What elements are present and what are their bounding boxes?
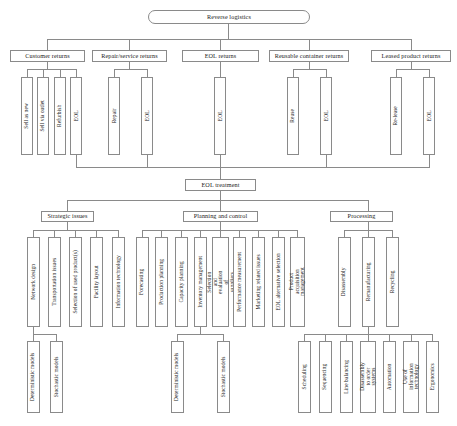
node-marketing-related-issues[interactable]: Marketing related issues (252, 237, 265, 327)
connector-planning-child-1 (142, 230, 143, 237)
node-label: Sequencing (323, 364, 329, 390)
node-label: Selection and evaluation of suppliers (206, 270, 234, 293)
node-strategic-deterministic-models[interactable]: Deterministic models (27, 341, 40, 413)
connector-eol-collect-leased (429, 155, 430, 167)
node-sell-as-new[interactable]: Sell as new (21, 77, 33, 155)
node-label: Re-lease (393, 106, 399, 125)
connector-customer-child-3 (60, 69, 61, 77)
node-information-technology[interactable]: Information technology (112, 237, 125, 327)
node-reuse[interactable]: Reuse (287, 77, 299, 155)
node-label: EOL (323, 111, 329, 122)
node-disassembly-to-order-systems[interactable]: Disassembly to order systems (360, 341, 376, 413)
node-product-acquisition-management[interactable]: Product acquisition management (290, 237, 305, 327)
connector-drop-reusable-container-returns (309, 39, 310, 50)
node-ergonomics[interactable]: Ergonomics (426, 341, 439, 413)
node-label: Refurbish (57, 105, 63, 127)
connector-repair-returns-bus (114, 69, 147, 70)
connector-planning-child-7 (258, 230, 259, 237)
node-label: Planning and control (194, 213, 248, 220)
node-line-balancing[interactable]: Line balancing (340, 341, 353, 413)
node-processing[interactable]: Processing (330, 211, 393, 222)
node-label: Remanufacturing (366, 263, 372, 302)
node-strategic-issues[interactable]: Strategic issues (41, 211, 94, 222)
node-sequencing[interactable]: Sequencing (319, 341, 332, 413)
connector-processing-sub-child-5 (389, 334, 390, 341)
connector-drop-processing (368, 200, 369, 211)
connector-processing-child-1 (344, 230, 345, 237)
connector-processing-sub-child-7 (432, 334, 433, 341)
connector-leased-child-2 (429, 69, 430, 77)
node-use-of-information-technology[interactable]: Use of information technology (403, 341, 419, 413)
node-label: Deterministic models (31, 353, 37, 401)
connector-strategic-child-1 (33, 230, 34, 237)
node-label: Disassembly to order systems (359, 363, 376, 392)
node-transportation-issues[interactable]: Transportation issues (48, 237, 61, 327)
node-label: EOL alternative selection (276, 253, 282, 310)
node-repair[interactable]: Repair (108, 77, 120, 155)
connector-processing-child-3 (392, 230, 393, 237)
connector-planning-child-8 (278, 230, 279, 237)
node-selection-and-evaluation-of-suppliers[interactable]: Selection and evaluation of suppliers (212, 237, 229, 327)
node-customer-returns[interactable]: Customer returns (10, 50, 85, 62)
node-repair-eol[interactable]: EOL (141, 77, 153, 155)
connector-strategic-sub-child-2 (56, 334, 57, 341)
connector-eol-treatment-stem (220, 167, 221, 179)
node-strategic-stochastic-models[interactable]: Stochastic models (50, 341, 63, 413)
node-recycling[interactable]: Recycling (386, 237, 399, 327)
connector-strategic-sub-child-1 (33, 334, 34, 341)
connector-drop-leased-product-returns (411, 39, 412, 50)
node-forecasting[interactable]: Forecasting (136, 237, 149, 327)
node-label: Production planning (159, 259, 165, 305)
node-label: EOL treatment (201, 182, 239, 189)
connector-leased-returns-stem (411, 62, 412, 69)
node-label: Reusable container returns (275, 53, 344, 60)
connector-repair-child-2 (147, 69, 148, 77)
connector-processing-stem (368, 222, 369, 230)
node-selection-of-used-products[interactable]: Selection of used product(s) (69, 237, 82, 327)
connector-planning-child-2 (161, 230, 162, 237)
node-label: Facility layout (94, 266, 100, 299)
node-eol-treatment[interactable]: EOL treatment (185, 179, 256, 191)
node-disassembly[interactable]: Disassembly (338, 237, 351, 327)
connector-planning-sub-child-1 (177, 334, 178, 341)
node-repair-service-returns[interactable]: Repair/service returns (92, 50, 167, 62)
node-label: EOL returns (205, 53, 237, 60)
node-remanufacturing[interactable]: Remanufacturing (362, 237, 375, 327)
node-re-lease[interactable]: Re-lease (390, 77, 402, 155)
node-capacity-planning[interactable]: Capacity planning (175, 237, 188, 327)
node-label: Automation (387, 364, 393, 391)
node-production-planning[interactable]: Production planning (155, 237, 168, 327)
node-facility-layout[interactable]: Facility layout (90, 237, 103, 327)
node-planning-deterministic-models[interactable]: Deterministic models (171, 341, 184, 413)
node-label: Selection of used product(s) (73, 250, 79, 313)
node-planning-and-control[interactable]: Planning and control (183, 211, 258, 222)
connector-strategic-child-2 (54, 230, 55, 237)
node-customer-eol[interactable]: EOL (70, 77, 82, 155)
node-network-design[interactable]: Network design (27, 237, 40, 327)
node-leased-product-returns[interactable]: Leased product returns (371, 50, 451, 62)
node-sell-via-outlet[interactable]: Sell via outlet (37, 77, 49, 155)
connector-drop-customer-returns (47, 39, 48, 50)
connector-customer-child-2 (43, 69, 44, 77)
node-performance-measurement[interactable]: Performance measurement (233, 237, 246, 327)
node-automation[interactable]: Automation (383, 341, 396, 413)
node-leased-eol[interactable]: EOL (423, 77, 435, 155)
node-reverse-logistics[interactable]: Reverse logistics (148, 10, 310, 24)
node-eol-alternative-selection[interactable]: EOL alternative selection (272, 237, 285, 327)
connector-eol-treatment-down (220, 191, 221, 200)
connector-processing-child-2 (368, 230, 369, 237)
connector-leased-returns-bus (396, 69, 429, 70)
connector-eol-collect-repair (147, 155, 148, 167)
node-label: EOL (144, 111, 150, 122)
connector-drop-eol-returns (220, 39, 221, 50)
node-label: Sell via outlet (40, 100, 46, 131)
node-reusable-container-returns[interactable]: Reusable container returns (269, 50, 349, 62)
node-scheduling[interactable]: Scheduling (298, 341, 311, 413)
node-reusable-eol[interactable]: EOL (320, 77, 332, 155)
node-label: Line balancing (344, 360, 350, 394)
node-eol-returns-eol[interactable]: EOL (214, 77, 226, 155)
node-refurbish[interactable]: Refurbish (54, 77, 66, 155)
node-planning-stochastic-models[interactable]: Stochastic models (217, 341, 230, 413)
connector-processing-sub-child-3 (346, 334, 347, 341)
node-eol-returns[interactable]: EOL returns (182, 50, 259, 62)
